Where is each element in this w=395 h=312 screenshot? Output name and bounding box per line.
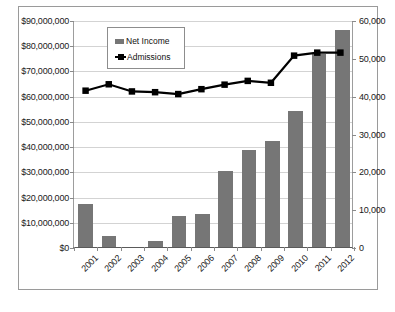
- right-axis-tick: [352, 59, 356, 60]
- x-axis-tick: [331, 247, 332, 251]
- data-point-marker: [221, 81, 227, 87]
- chart-frame: $0$10,000,000$20,000,000$30,000,000$40,0…: [18, 6, 378, 290]
- gridline: [74, 172, 352, 173]
- right-axis-tick: [352, 21, 356, 22]
- right-axis-tick-label: 10,000: [359, 205, 385, 215]
- bar: [102, 236, 116, 247]
- left-axis-tick: [70, 71, 74, 72]
- x-axis-tick: [261, 247, 262, 251]
- left-axis-tick-label: $30,000,000: [21, 167, 69, 177]
- x-axis-tick-label: 2009: [266, 253, 287, 274]
- legend-item-admissions: Admissions: [115, 49, 184, 65]
- bar-swatch-icon: [115, 39, 124, 44]
- gridline: [74, 97, 352, 98]
- x-axis-tick-label: 2004: [149, 253, 170, 274]
- x-axis-tick: [167, 247, 168, 251]
- x-axis-tick: [214, 247, 215, 251]
- x-axis-tick: [354, 247, 355, 251]
- x-axis-tick-label: 2006: [196, 253, 217, 274]
- data-point-marker: [152, 89, 158, 95]
- gridline: [74, 21, 352, 22]
- bar: [312, 54, 326, 247]
- data-point-marker: [268, 80, 274, 86]
- left-axis-tick: [70, 46, 74, 47]
- left-axis-tick-label: $20,000,000: [21, 193, 69, 203]
- legend-label-net-income: Net Income: [126, 36, 169, 46]
- right-axis-tick: [352, 135, 356, 136]
- left-axis-tick-label: $40,000,000: [21, 142, 69, 152]
- x-axis-tick-label: 2012: [336, 253, 357, 274]
- left-axis-tick: [70, 198, 74, 199]
- left-axis-tick-label: $0: [59, 243, 69, 253]
- data-point-marker: [198, 86, 204, 92]
- x-axis-tick: [97, 247, 98, 251]
- left-axis-tick-label: $60,000,000: [21, 92, 69, 102]
- gridline: [74, 71, 352, 72]
- gridline: [74, 198, 352, 199]
- bar: [78, 204, 92, 247]
- data-point-marker: [82, 87, 88, 93]
- bar: [335, 30, 349, 247]
- left-axis-tick: [70, 122, 74, 123]
- right-axis-tick: [352, 210, 356, 211]
- x-axis-tick-label: 2011: [313, 253, 333, 273]
- left-axis-tick-label: $70,000,000: [21, 66, 69, 76]
- x-axis-tick: [307, 247, 308, 251]
- data-point-marker: [106, 81, 112, 87]
- gridline: [74, 147, 352, 148]
- x-axis-tick-label: 2008: [242, 253, 263, 274]
- x-axis-tick: [121, 247, 122, 251]
- bar: [172, 216, 186, 247]
- left-axis-tick-label: $90,000,000: [21, 16, 69, 26]
- x-axis-tick-label: 2001: [79, 253, 100, 274]
- bar: [148, 241, 162, 247]
- x-axis-tick: [144, 247, 145, 251]
- data-point-marker: [129, 88, 135, 94]
- x-axis-tick-label: 2005: [172, 253, 193, 274]
- x-axis-tick-label: 2003: [126, 253, 147, 274]
- x-axis-tick: [191, 247, 192, 251]
- x-axis-tick: [237, 247, 238, 251]
- right-axis-tick-label: 40,000: [359, 92, 385, 102]
- gridline: [74, 223, 352, 224]
- legend-item-net-income: Net Income: [115, 33, 184, 49]
- left-axis-tick: [70, 21, 74, 22]
- data-point-marker: [245, 78, 251, 84]
- line-marker-swatch-icon: [115, 53, 126, 61]
- right-axis-tick: [352, 97, 356, 98]
- x-axis-tick: [284, 247, 285, 251]
- right-axis-tick-label: 0: [359, 243, 364, 253]
- x-axis-tick-label: 2007: [219, 253, 240, 274]
- data-point-marker: [291, 52, 297, 58]
- x-axis-tick-label: 2002: [102, 253, 123, 274]
- x-axis-tick: [74, 247, 75, 251]
- bar: [242, 150, 256, 247]
- left-axis-tick-label: $50,000,000: [21, 117, 69, 127]
- right-axis-tick-label: 50,000: [359, 54, 385, 64]
- left-axis-tick: [70, 223, 74, 224]
- left-axis-tick-label: $10,000,000: [21, 218, 69, 228]
- bar: [288, 111, 302, 247]
- left-axis-tick: [70, 147, 74, 148]
- right-axis-tick-label: 60,000: [359, 16, 385, 26]
- chart-legend: Net Income Admissions: [107, 27, 185, 69]
- legend-label-admissions: Admissions: [127, 52, 170, 62]
- bar: [195, 214, 209, 247]
- bar: [218, 171, 232, 247]
- right-axis-tick-label: 20,000: [359, 167, 385, 177]
- right-axis-tick: [352, 172, 356, 173]
- gridline: [74, 122, 352, 123]
- left-axis-tick-label: $80,000,000: [21, 41, 69, 51]
- left-axis-tick: [70, 97, 74, 98]
- bar: [265, 141, 279, 247]
- left-axis-tick: [70, 172, 74, 173]
- right-axis-tick-label: 30,000: [359, 130, 385, 140]
- x-axis-tick-label: 2010: [289, 253, 310, 274]
